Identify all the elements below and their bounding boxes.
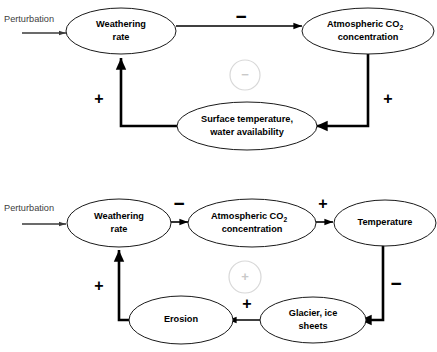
- sign-co2-to-surface-top: +: [383, 90, 392, 107]
- sign-erosion-to-weathering-bottom: +: [94, 277, 103, 294]
- node-surface-temperature-label-line2-top: water availability: [209, 127, 284, 137]
- node-weathering-rate-label-line1-top: Weathering: [96, 19, 146, 29]
- node-weathering-rate-bottom: [67, 199, 171, 247]
- diagram-canvas: − Perturbation Weathering rate Atmospher…: [0, 0, 437, 352]
- sign-co2-to-temperature-bottom: +: [318, 195, 327, 212]
- node-glacier-label-line1-bottom: Glacier, ice: [289, 308, 338, 318]
- node-atmospheric-co2-bottom: [188, 199, 316, 247]
- co2-subscript-top: 2: [399, 24, 403, 31]
- node-temperature-label-bottom: Temperature: [358, 217, 413, 227]
- link-surface-to-weathering-top: [121, 58, 178, 126]
- diagram-bottom-group: + Perturbation Weathering rate Atmospher…: [4, 193, 436, 344]
- link-co2-to-surface-top: [316, 52, 368, 126]
- link-erosion-to-weathering-bottom: [119, 250, 135, 320]
- node-surface-temperature-top: [177, 102, 317, 150]
- node-weathering-rate-label-line2-top: rate: [113, 32, 130, 42]
- node-surface-temperature-label-line1-top: Surface temperature,: [201, 114, 293, 124]
- co2-subscript-bottom: 2: [283, 216, 287, 223]
- diagram-svg: − Perturbation Weathering rate Atmospher…: [0, 0, 437, 352]
- node-weathering-rate-top: [66, 8, 176, 54]
- co2-main-text-top: Atmospheric CO: [327, 19, 400, 29]
- sign-temperature-to-glacier-bottom: −: [390, 273, 401, 294]
- perturbation-label-top: Perturbation: [4, 14, 54, 24]
- node-atmospheric-co2-label-line2-bottom: concentration: [222, 224, 283, 234]
- loop-marker-sign-bottom: +: [241, 269, 249, 284]
- node-atmospheric-co2-top: [302, 8, 434, 54]
- perturbation-label-bottom: Perturbation: [4, 203, 54, 213]
- node-erosion-label-bottom: Erosion: [164, 314, 199, 324]
- node-atmospheric-co2-label-line1-bottom: Atmospheric CO2: [211, 211, 288, 222]
- sign-weathering-to-co2-top: −: [235, 6, 246, 27]
- loop-marker-sign-top: −: [241, 67, 249, 82]
- sign-weathering-to-co2-bottom: −: [173, 193, 184, 214]
- diagram-top-group: − Perturbation Weathering rate Atmospher…: [4, 6, 434, 150]
- node-glacier-label-line2-bottom: sheets: [298, 321, 327, 331]
- node-atmospheric-co2-label-line1-top: Atmospheric CO2: [327, 19, 404, 30]
- sign-surface-to-weathering-top: +: [94, 90, 103, 107]
- link-temperature-to-glacier-bottom: [360, 245, 383, 320]
- sign-glacier-to-erosion-bottom: +: [242, 295, 251, 312]
- co2-main-text-bottom: Atmospheric CO: [211, 211, 284, 221]
- node-atmospheric-co2-label-line2-top: concentration: [338, 32, 399, 42]
- node-weathering-rate-label-line1-bottom: Weathering: [94, 211, 144, 221]
- node-weathering-rate-label-line2-bottom: rate: [111, 224, 128, 234]
- node-glacier-ice-sheets-bottom: [260, 297, 366, 343]
